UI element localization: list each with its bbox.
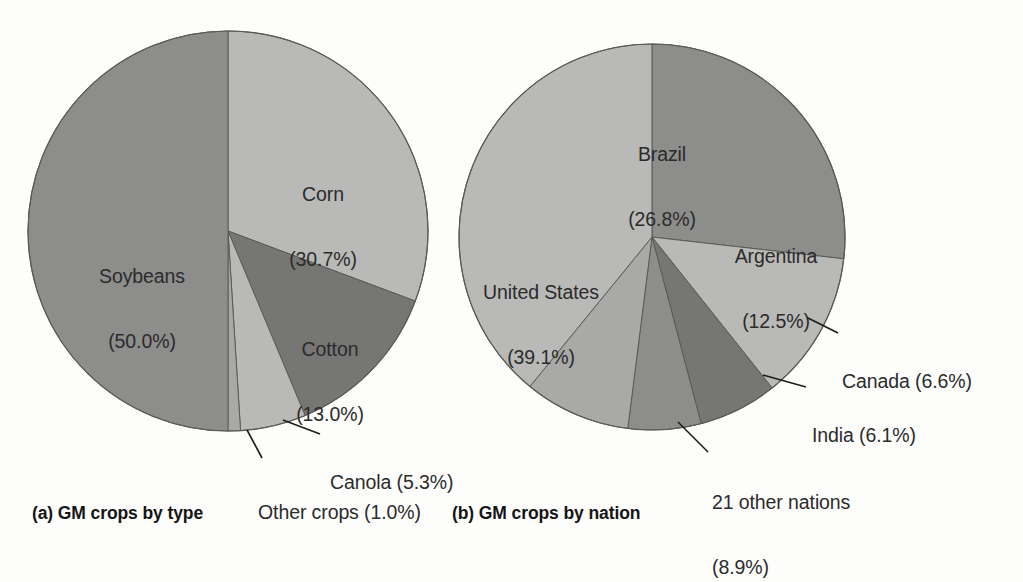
panel-b-caption: (b) GM crops by nation [452,503,640,524]
slice-label-argentina-name: Argentina [735,246,818,268]
panel-a-caption: (a) GM crops by type [32,503,203,524]
slice-label-argentina: Argentina (12.5%) [735,202,818,377]
slice-label-brazil-value: (26.8%) [628,209,696,231]
slice-label-brazil-name: Brazil [628,144,696,166]
slice-label-soybeans-name: Soybeans [99,266,185,288]
slice-label-united-states-name: United States [483,282,599,304]
pie-chart-gm-crops-by-type [28,31,428,458]
leader-line-21-other-nations [678,422,708,452]
slice-label-soybeans-value: (50.0%) [99,331,185,353]
slice-label-other-nations: 21 other nations (8.9%) [712,448,850,582]
leader-line-other-crops [247,430,262,458]
slice-label-other-crops-text: Other crops (1.0%) [258,502,421,524]
slice-label-corn: Corn (30.7%) [289,140,357,315]
slice-label-brazil: Brazil (26.8%) [628,100,696,275]
slice-label-united-states-value: (39.1%) [483,347,599,369]
slice-label-other-nations-value: (8.9%) [712,557,850,579]
slice-label-other-nations-name: 21 other nations [712,492,850,514]
slice-label-cotton-name: Cotton [296,339,364,361]
slice-label-corn-value: (30.7%) [289,249,357,271]
slice-label-other-crops: Other crops (1.0%) [258,458,421,567]
slice-label-cotton-value: (13.0%) [296,404,364,426]
slice-label-argentina-value: (12.5%) [735,311,818,333]
slice-label-corn-name: Corn [289,184,357,206]
slice-label-united-states: United States (39.1%) [483,238,599,413]
slice-label-india-text: India (6.1%) [812,425,916,447]
slice-label-soybeans: Soybeans (50.0%) [99,222,185,397]
